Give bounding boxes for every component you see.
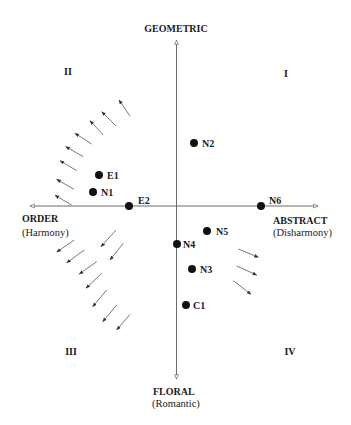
data-point-n3: N3 — [188, 264, 212, 275]
data-point-n2: N2 — [190, 138, 214, 149]
point-label: C1 — [193, 300, 205, 311]
data-point-e2: E2 — [125, 195, 150, 210]
axis-sublabel-right: (Disharmony) — [273, 227, 332, 239]
trend-arrow-icon-lower-right — [238, 249, 258, 257]
data-point-n1: N1 — [89, 187, 113, 198]
point-marker-icon — [257, 202, 265, 210]
trend-arrow-icon-lower-left — [93, 290, 107, 307]
trend-arrow-icon-lower-left — [79, 262, 96, 274]
trend-arrows — [55, 100, 258, 330]
trend-arrow-icon-upper-left — [102, 112, 116, 126]
point-label: N6 — [269, 195, 281, 206]
trend-arrow-icon-lower-left — [86, 273, 102, 288]
trend-arrow-icon-upper-left — [55, 195, 72, 205]
axis-label-bottom: FLORAL — [153, 386, 195, 397]
axis-sublabel-bottom: (Romantic) — [152, 398, 200, 410]
quadrant-label-1: I — [284, 68, 288, 79]
trend-arrow-icon-upper-left — [57, 179, 74, 189]
trend-arrow-icon-lower-right — [237, 266, 257, 275]
trend-arrow-icon-lower-left — [103, 305, 117, 322]
point-label: N5 — [216, 226, 228, 237]
trend-arrow-icon-lower-left — [110, 243, 123, 260]
quadrant-label-4: IV — [284, 346, 296, 357]
point-marker-icon — [190, 139, 198, 147]
point-marker-icon — [173, 240, 181, 248]
point-marker-icon — [89, 188, 97, 196]
data-point-n6: N6 — [257, 195, 281, 210]
data-point-c1: C1 — [182, 300, 205, 311]
data-point-e1: E1 — [95, 170, 119, 181]
point-label: E1 — [107, 170, 119, 181]
axis-label-top: GEOMETRIC — [144, 23, 207, 34]
data-points: E1N1E2N2N6N5N4N3C1 — [89, 138, 281, 311]
trend-arrow-icon-upper-left — [119, 100, 130, 116]
trend-arrow-icon-lower-left — [67, 250, 85, 263]
point-label: N2 — [202, 138, 214, 149]
axes — [30, 40, 318, 379]
point-marker-icon — [203, 227, 211, 235]
axis-sublabel-left: (Harmony) — [22, 227, 69, 239]
trend-arrow-icon-lower-left — [57, 240, 75, 252]
trend-arrow-icon-lower-left — [117, 314, 130, 330]
data-point-n5: N5 — [203, 226, 228, 237]
positioning-diagram: GEOMETRIC ORDER (Harmony) ABSTRACT (Dish… — [0, 0, 351, 425]
point-label: E2 — [138, 195, 150, 206]
trend-arrow-icon-upper-left — [90, 121, 103, 135]
point-marker-icon — [182, 301, 190, 309]
point-label: N1 — [101, 187, 113, 198]
quadrant-label-2: II — [64, 66, 72, 77]
trend-arrow-icon-upper-left — [75, 133, 92, 144]
point-marker-icon — [95, 171, 103, 179]
axis-label-right: ABSTRACT — [273, 215, 328, 226]
point-marker-icon — [188, 265, 196, 273]
axis-label-left: ORDER — [22, 213, 59, 224]
point-label: N3 — [200, 264, 212, 275]
quadrant-label-3: III — [65, 346, 77, 357]
trend-arrow-icon-upper-left — [66, 147, 84, 157]
trend-arrow-icon-upper-left — [60, 161, 77, 171]
trend-arrow-icon-lower-right — [233, 281, 251, 295]
point-marker-icon — [125, 202, 133, 210]
trend-arrow-icon-lower-left — [101, 230, 116, 247]
point-label: N4 — [183, 239, 195, 250]
